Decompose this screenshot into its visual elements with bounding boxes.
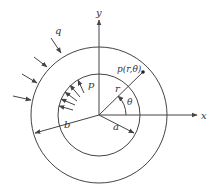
label-point: p(r,θ) — [117, 64, 142, 74]
label-b: b — [64, 119, 70, 130]
label-theta: θ — [127, 97, 133, 107]
point-p — [141, 70, 145, 74]
label-a: a — [113, 121, 119, 132]
radius-r-line — [99, 72, 143, 115]
outer-pressure-arrows — [13, 38, 61, 100]
theta-arc — [118, 96, 126, 115]
label-p-inner: p — [88, 79, 95, 90]
label-x: x — [201, 110, 207, 121]
label-q: q — [55, 25, 61, 36]
annulus-diagram: q p p(r,θ) r θ a b x y — [0, 0, 219, 193]
label-y: y — [95, 7, 102, 18]
label-r: r — [115, 83, 121, 94]
